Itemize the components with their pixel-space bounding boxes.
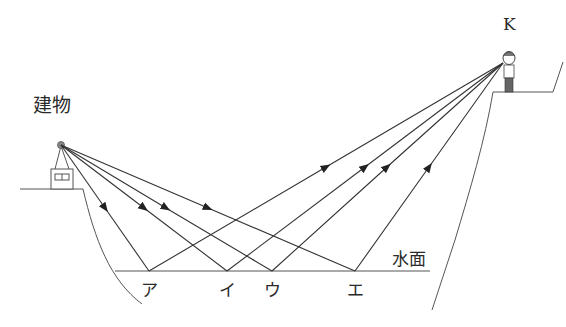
ray-out-b	[227, 63, 503, 271]
ray-in-c	[61, 145, 272, 271]
observer-figure	[503, 52, 515, 93]
ray-out-a	[149, 63, 503, 271]
left-bank	[20, 189, 142, 304]
building-label: 建物	[33, 90, 71, 117]
point-e-label: エ	[347, 276, 364, 301]
ray-out-c	[272, 63, 503, 271]
point-u-label: ウ	[264, 276, 281, 301]
reflected-rays	[149, 63, 503, 271]
point-a-label: ア	[141, 276, 158, 301]
right-cliff	[432, 62, 563, 310]
water-surface-label: 水面	[392, 245, 426, 270]
point-i-label: イ	[219, 276, 236, 301]
ray-out-d	[355, 63, 503, 271]
light-reflection-diagram	[0, 0, 566, 327]
observer-label: K	[503, 14, 516, 34]
building	[51, 146, 73, 189]
ray-in-b	[61, 145, 227, 271]
